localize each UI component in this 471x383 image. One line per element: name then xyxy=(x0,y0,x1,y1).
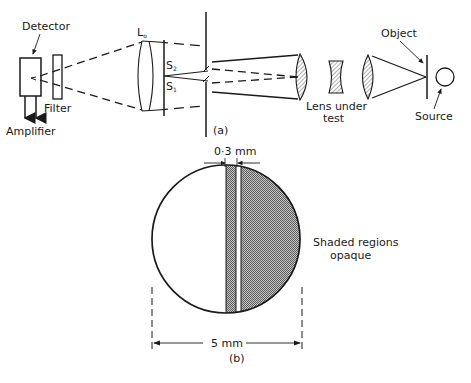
screen-aperture xyxy=(203,12,209,137)
filter-label: Filter xyxy=(44,102,72,115)
lens-l0: Lo xyxy=(137,26,158,111)
slit-width-label: 0·3 mm xyxy=(214,145,256,158)
part-a-optical-setup: Detector Amplifier Filter Lo xyxy=(6,12,454,138)
slit-plate: S2 S1 xyxy=(158,40,208,116)
converging-beam xyxy=(40,42,142,110)
slit-s2-label: S2 xyxy=(166,59,177,72)
collimated-beam xyxy=(212,55,298,99)
opaque-regions xyxy=(226,160,303,320)
objective-lens xyxy=(363,55,427,99)
light-source: Source xyxy=(415,68,454,123)
object-label: Object xyxy=(381,27,418,40)
lens-under-test-label-line2: test xyxy=(323,112,345,125)
shaded-regions-label-line1: Shaded regions xyxy=(313,236,399,249)
amplifier-label: Amplifier xyxy=(6,125,56,138)
slit-width-dimension: 0·3 mm xyxy=(204,145,260,167)
part-b-slit-mask: 0·3 mm Shaded regions opaque 5 mm (b) xyxy=(152,145,399,365)
slit-s1-label: S1 xyxy=(166,80,177,93)
diameter-label: 5 mm xyxy=(211,337,243,350)
source-label: Source xyxy=(415,110,453,123)
shaded-regions-label-line2: opaque xyxy=(330,249,371,262)
lens-l0-label: Lo xyxy=(137,26,147,39)
lens-under-test: Lens under test xyxy=(306,61,368,125)
object-plane: Object xyxy=(381,27,427,99)
part-a-caption: (a) xyxy=(213,124,228,137)
detector: Detector xyxy=(20,20,70,96)
collimator-lens xyxy=(296,54,307,100)
optical-test-diagram: Detector Amplifier Filter Lo xyxy=(0,0,471,383)
detector-label: Detector xyxy=(22,20,70,33)
part-b-caption: (b) xyxy=(229,352,245,365)
